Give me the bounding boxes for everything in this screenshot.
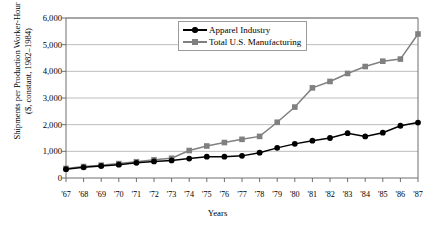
x-axis-tick-label: '85: [378, 190, 388, 199]
x-axis-tick-label: '68: [79, 190, 89, 199]
x-axis-tick-label: '83: [343, 190, 353, 199]
x-axis-tick-label: '80: [290, 190, 300, 199]
x-axis-tick-label: '74: [184, 190, 194, 199]
x-axis-tick-label: '84: [360, 190, 370, 199]
x-axis-tick-label: '86: [396, 190, 406, 199]
x-axis-tick-label: '77: [237, 190, 247, 199]
legend-label: Apparel Industry: [209, 25, 270, 36]
x-axis-tick-label: '69: [96, 190, 106, 199]
x-axis-tick-label: '70: [114, 190, 124, 199]
legend-swatch-circle-icon: [183, 25, 207, 35]
x-axis-tick-label: '76: [220, 190, 230, 199]
legend-swatch-square-icon: [183, 37, 207, 47]
chart-legend: Apparel IndustryTotal U.S. Manufacturing: [178, 21, 307, 51]
x-axis-tick-label: '73: [167, 190, 177, 199]
x-axis-tick-label: '87: [413, 190, 423, 199]
legend-item: Total U.S. Manufacturing: [183, 36, 301, 48]
x-axis-tick-label: '71: [132, 190, 142, 199]
x-axis-label: Years: [0, 208, 435, 218]
x-axis-tick-label: '79: [272, 190, 282, 199]
legend-label: Total U.S. Manufacturing: [209, 37, 301, 48]
x-axis-tick-label: '75: [202, 190, 212, 199]
x-axis-tick-label: '67: [61, 190, 71, 199]
x-axis-tick-label: '72: [149, 190, 159, 199]
legend-item: Apparel Industry: [183, 24, 301, 36]
x-axis-tick-label: '81: [308, 190, 318, 199]
chart-container: Shipments per Production Worker-Hour ($,…: [0, 0, 435, 229]
x-axis-tick-label: '82: [325, 190, 335, 199]
x-axis-tick-label: '78: [255, 190, 265, 199]
